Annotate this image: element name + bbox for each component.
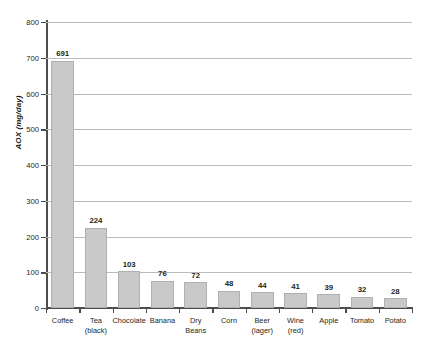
bar-value-label: 72 [179,271,212,280]
x-axis-label-line: Potato [373,316,418,326]
bar[interactable] [184,282,207,308]
x-tick-mark [179,308,180,313]
y-tick-label: 800 [26,18,39,27]
bar-chart: AOX (mg/day) 0100200300400500600700800 6… [0,0,421,364]
bar[interactable] [51,61,74,308]
x-tick-mark [246,308,247,313]
bar-group: 39 [312,22,345,308]
x-tick-mark [379,308,380,313]
y-tick-label: 600 [26,89,39,98]
bar[interactable] [151,281,174,308]
y-tick-label: 0 [35,304,39,313]
bar-value-label: 103 [113,260,146,269]
bars-layer: 6912241037672484441393228 [46,22,412,308]
bar-value-label: 76 [146,269,179,278]
x-axis-label-line: (red) [273,326,318,336]
bar[interactable] [251,292,274,308]
bar-value-label: 28 [379,287,412,296]
bar[interactable] [384,298,407,308]
y-tick-label: 700 [26,53,39,62]
x-tick-mark [146,308,147,313]
bar-group: 103 [113,22,146,308]
y-tick-label: 100 [26,268,39,277]
x-tick-mark [345,308,346,313]
bar[interactable] [317,294,340,308]
x-tick-mark [79,308,80,313]
y-axis-title: AOX (mg/day) [14,63,23,183]
bar-value-label: 691 [46,49,79,58]
bar-value-label: 224 [79,216,112,225]
bar-group: 41 [279,22,312,308]
bar-value-label: 41 [279,282,312,291]
bar[interactable] [118,271,141,308]
x-tick-mark [46,308,47,313]
bar-group: 76 [146,22,179,308]
bar-value-label: 48 [212,279,245,288]
bar-group: 691 [46,22,79,308]
bar-group: 32 [345,22,378,308]
bar[interactable] [351,297,374,308]
bar-group: 224 [79,22,112,308]
bar-value-label: 39 [312,283,345,292]
bar-group: 48 [212,22,245,308]
x-tick-mark [279,308,280,313]
y-tick-label: 300 [26,196,39,205]
bar-group: 28 [379,22,412,308]
x-tick-mark [312,308,313,313]
x-axis-label-line: Beans [173,326,218,336]
x-tick-mark [412,308,413,313]
bar[interactable] [85,228,108,308]
y-tick-label: 400 [26,161,39,170]
bar-value-label: 32 [345,285,378,294]
y-tick-label: 200 [26,232,39,241]
x-tick-mark [212,308,213,313]
x-axis-label: Potato [373,316,418,326]
bar[interactable] [284,293,307,308]
y-tick-label: 500 [26,125,39,134]
bar[interactable] [218,291,241,308]
bar-group: 44 [246,22,279,308]
x-tick-mark [113,308,114,313]
bar-group: 72 [179,22,212,308]
x-axis-label-line: (black) [73,326,118,336]
x-axis-labels: CoffeeTea(black)ChocolateBananaDryBeansC… [46,316,412,356]
bar-value-label: 44 [246,281,279,290]
